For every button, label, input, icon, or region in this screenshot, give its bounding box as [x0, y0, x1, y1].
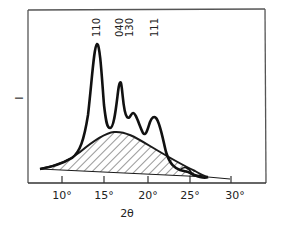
y-axis-label: I: [13, 96, 26, 99]
xrd-chart: 10° 15° 20° 25° 30° 2θ I 110 040 130 111: [0, 0, 281, 231]
peak-label-130: 130: [124, 18, 135, 37]
x-axis-tick-labels: 10° 15° 20° 25° 30°: [52, 189, 245, 202]
peak-label-111: 111: [149, 18, 160, 37]
tick-label-15: 15°: [94, 189, 114, 202]
peak-label-110: 110: [91, 18, 102, 37]
peak-labels: 110 040 130 111: [91, 18, 160, 37]
x-axis-label: 2θ: [120, 207, 134, 220]
tick-label-20: 20°: [138, 189, 158, 202]
tick-label-30: 30°: [225, 189, 245, 202]
tick-label-25: 25°: [180, 189, 200, 202]
tick-label-10: 10°: [52, 189, 72, 202]
